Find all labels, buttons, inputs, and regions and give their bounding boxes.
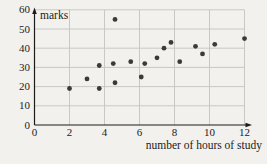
data-point — [67, 86, 72, 91]
data-point — [162, 46, 167, 51]
data-point — [113, 17, 118, 22]
data-point — [85, 77, 90, 82]
data-point — [169, 40, 174, 45]
scatter-chart: marks number of hours of study 024681012… — [0, 0, 267, 164]
y-axis-label: marks — [40, 9, 68, 21]
y-tick-label: 60 — [3, 4, 30, 15]
x-axis-label: number of hours of study — [146, 139, 262, 151]
data-point — [97, 63, 102, 68]
x-tick-label: 8 — [164, 127, 186, 138]
y-tick-label: 0 — [3, 120, 30, 131]
y-tick-label: 40 — [3, 43, 30, 54]
y-tick-label: 10 — [3, 100, 30, 111]
data-point — [111, 61, 116, 66]
data-point — [128, 59, 133, 64]
data-point — [242, 36, 247, 41]
data-point — [142, 61, 147, 66]
x-tick-label: 10 — [199, 127, 221, 138]
data-point — [155, 55, 160, 60]
data-point — [139, 75, 144, 80]
y-tick-label: 50 — [3, 24, 30, 35]
y-axis-arrow-icon — [32, 8, 37, 15]
data-point — [212, 42, 217, 47]
data-point — [193, 44, 198, 49]
data-point — [177, 59, 182, 64]
x-tick-label: 12 — [234, 127, 256, 138]
x-tick-label: 4 — [94, 127, 116, 138]
y-tick-label: 30 — [3, 62, 30, 73]
y-tick-label: 20 — [3, 81, 30, 92]
data-point — [113, 80, 118, 85]
data-point — [200, 52, 205, 57]
x-tick-label: 6 — [129, 127, 151, 138]
data-point — [97, 86, 102, 91]
x-tick-label: 2 — [59, 127, 81, 138]
